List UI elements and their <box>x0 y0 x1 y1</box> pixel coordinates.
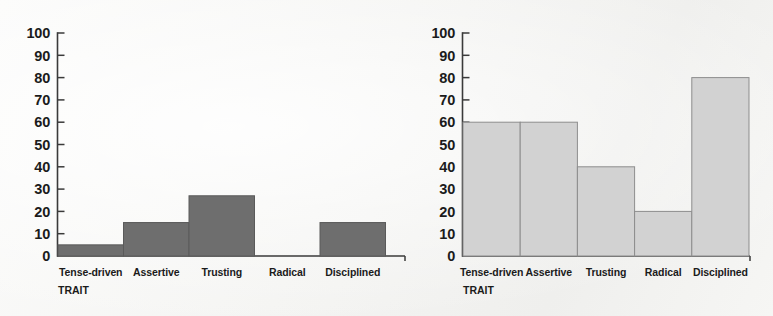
bar-chart-left: 0102030405060708090100Tense-drivenAssert… <box>0 0 410 316</box>
bar-tense-driven <box>58 245 124 256</box>
x-axis-tick-label-trusting: Trusting <box>201 266 242 278</box>
y-axis-tick-label: 60 <box>34 114 50 130</box>
y-axis-tick-label: 0 <box>42 248 50 264</box>
y-axis-tick-label: 70 <box>34 92 50 108</box>
y-axis-tick-label: 60 <box>439 114 455 130</box>
x-axis-tick-label-disciplined: Disciplined <box>325 266 380 278</box>
y-axis-tick-label: 10 <box>34 226 50 242</box>
y-axis-tick-label: 40 <box>439 159 455 175</box>
y-axis-tick-label: 90 <box>34 48 50 64</box>
y-axis-tick-label: 20 <box>34 204 50 220</box>
bar-assertive <box>520 122 577 256</box>
y-axis-tick-label: 20 <box>439 204 455 220</box>
bar-disciplined <box>320 223 386 256</box>
x-axis-tick-label-assertive: Assertive <box>526 266 573 278</box>
x-axis-tick-label-radical: Radical <box>269 266 306 278</box>
y-axis-tick-label: 80 <box>439 70 455 86</box>
bar-trusting <box>189 196 255 256</box>
bar-chart-right-canvas: 0102030405060708090100Tense-drivenAssert… <box>410 0 773 316</box>
x-axis-title: TRAIT <box>58 284 89 296</box>
bar-disciplined <box>692 78 749 256</box>
bar-assertive <box>124 223 190 256</box>
bar-radical <box>635 211 692 256</box>
x-axis-tick-label-assertive: Assertive <box>133 266 180 278</box>
x-axis-tick-label-disciplined: Disciplined <box>693 266 748 278</box>
x-axis-tick-label-trusting: Trusting <box>586 266 627 278</box>
y-axis-tick-label: 0 <box>447 248 455 264</box>
x-axis-tick-label-tense-driven: Tense-driven <box>59 266 122 278</box>
charts-row: 0102030405060708090100Tense-drivenAssert… <box>0 0 773 316</box>
bar-tense-driven <box>463 122 520 256</box>
y-axis-tick-label: 90 <box>439 48 455 64</box>
bar-trusting <box>577 167 634 256</box>
y-axis-tick-label: 30 <box>34 181 50 197</box>
x-axis-tick-label-tense-driven: Tense-driven <box>460 266 523 278</box>
y-axis-tick-label: 50 <box>34 137 50 153</box>
y-axis-tick-label: 30 <box>439 181 455 197</box>
y-axis-tick-label: 40 <box>34 159 50 175</box>
y-axis-tick-label: 100 <box>431 25 455 41</box>
y-axis-tick-label: 80 <box>34 70 50 86</box>
x-axis-title: TRAIT <box>463 284 494 296</box>
bar-chart-right: 0102030405060708090100Tense-drivenAssert… <box>410 0 773 316</box>
x-axis-tick-label-radical: Radical <box>645 266 682 278</box>
y-axis-tick-label: 50 <box>439 137 455 153</box>
y-axis-tick-label: 100 <box>26 25 50 41</box>
y-axis-tick-label: 70 <box>439 92 455 108</box>
y-axis-tick-label: 10 <box>439 226 455 242</box>
bar-chart-left-canvas: 0102030405060708090100Tense-drivenAssert… <box>0 0 410 316</box>
